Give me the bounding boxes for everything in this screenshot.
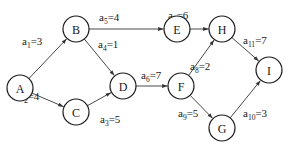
node-label: A bbox=[16, 82, 25, 96]
node-d: D bbox=[110, 73, 136, 99]
node-label: F bbox=[178, 80, 185, 94]
node-c: C bbox=[63, 99, 89, 125]
edge-label-a9: a9=5 bbox=[178, 107, 199, 122]
node-a: A bbox=[7, 75, 33, 101]
node-f: F bbox=[168, 73, 194, 99]
edge-label-a8: a8=2 bbox=[190, 60, 210, 75]
node-label: B bbox=[72, 23, 80, 37]
node-h: H bbox=[209, 16, 235, 42]
node-label: E bbox=[173, 23, 180, 37]
node-label: I bbox=[267, 64, 271, 78]
node-g: G bbox=[209, 115, 235, 141]
node-e: E bbox=[164, 16, 190, 42]
node-label: H bbox=[218, 23, 227, 37]
network-diagram: a1=3a2=4a3=5a4=1a5=4a6=7a7=6a8=2a9=5a10=… bbox=[0, 0, 296, 149]
node-label: G bbox=[218, 122, 227, 136]
edge-label-a5: a5=4 bbox=[99, 11, 120, 26]
node-b: B bbox=[63, 16, 89, 42]
edge-label-a3: a3=5 bbox=[100, 113, 121, 128]
node-label: C bbox=[72, 106, 80, 120]
edge-arrow-c-d bbox=[87, 93, 111, 106]
edge-label-a6: a6=7 bbox=[141, 69, 162, 84]
node-label: D bbox=[119, 80, 128, 94]
edge-label-a4: a4=1 bbox=[98, 38, 118, 53]
edge-label-a11: a11=7 bbox=[243, 34, 267, 49]
edge-label-a10: a10=3 bbox=[243, 107, 268, 122]
edge-label-a1: a1=3 bbox=[22, 35, 43, 50]
node-i: I bbox=[256, 57, 282, 83]
